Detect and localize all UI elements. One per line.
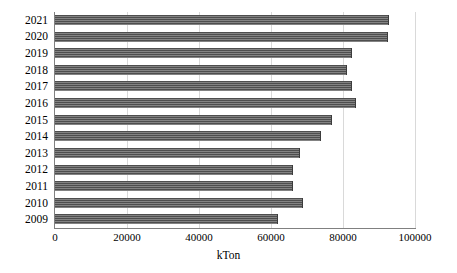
bar-2021	[55, 15, 389, 25]
bar-2011	[55, 181, 293, 191]
bar-2014	[55, 131, 321, 141]
y-tick-label-2018: 2018	[0, 64, 48, 76]
bar-row	[55, 128, 415, 145]
y-tick-label-2009: 2009	[0, 213, 48, 225]
bar-row	[55, 211, 415, 228]
bar-row	[55, 95, 415, 112]
x-axis-title: kTon	[0, 249, 457, 262]
bar-2018	[55, 65, 347, 75]
plot-area	[55, 12, 415, 228]
y-tick-label-2016: 2016	[0, 97, 48, 109]
y-tick-label-2014: 2014	[0, 130, 48, 142]
y-tick-label-2020: 2020	[0, 30, 48, 42]
y-tick-label-2015: 2015	[0, 114, 48, 126]
bar-row	[55, 112, 415, 129]
bar-2017	[55, 81, 352, 91]
bar-2010	[55, 198, 303, 208]
bar-row	[55, 45, 415, 62]
bar-row	[55, 162, 415, 179]
bar-2012	[55, 165, 293, 175]
y-tick-label-2010: 2010	[0, 197, 48, 209]
bar-2016	[55, 98, 356, 108]
bar-row	[55, 178, 415, 195]
bar-2013	[55, 148, 300, 158]
y-tick-label-2017: 2017	[0, 80, 48, 92]
y-tick-label-2013: 2013	[0, 147, 48, 159]
y-tick-label-2019: 2019	[0, 47, 48, 59]
bar-row	[55, 29, 415, 46]
bar-row	[55, 12, 415, 29]
bar-row	[55, 195, 415, 212]
y-tick-label-2012: 2012	[0, 163, 48, 175]
bar-2020	[55, 32, 388, 42]
bar-row	[55, 78, 415, 95]
x-axis-line	[54, 228, 416, 229]
y-tick-label-2011: 2011	[0, 180, 48, 192]
bar-2019	[55, 48, 352, 58]
bar-2015	[55, 115, 332, 125]
bar-2009	[55, 214, 278, 224]
gridline-100000	[415, 12, 416, 228]
x-tick-label-100000: 100000	[370, 231, 457, 244]
bar-row	[55, 145, 415, 162]
y-tick-label-2021: 2021	[0, 14, 48, 26]
bar-row	[55, 62, 415, 79]
bar-chart: 2021202020192018201720162015201420132012…	[0, 0, 457, 273]
